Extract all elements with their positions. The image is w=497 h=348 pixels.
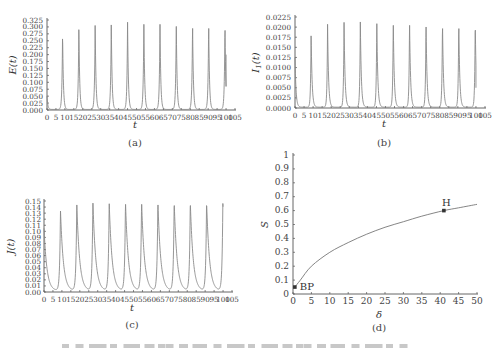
x-axis-label: t bbox=[382, 118, 387, 129]
series-line bbox=[295, 204, 477, 287]
x-tick-label: 30 bbox=[398, 296, 410, 306]
x-tick-label: 45 bbox=[453, 296, 465, 306]
panel-subtitle: (b) bbox=[377, 137, 391, 148]
y-tick-label: 1 bbox=[283, 150, 289, 160]
x-tick-label: 15 bbox=[342, 296, 354, 306]
y-axis-label: S bbox=[259, 221, 270, 228]
x-tick-label: 40 bbox=[434, 296, 446, 306]
x-tick-label: 105 bbox=[225, 295, 239, 304]
chart-panel-c: 0510152025303540455055606570758085909510… bbox=[5, 197, 239, 331]
y-tick-label: 0.325 bbox=[22, 16, 43, 25]
x-tick-label: 10 bbox=[324, 296, 336, 306]
x-tick-label: 35 bbox=[416, 296, 428, 306]
x-tick-label: 50 bbox=[471, 296, 483, 306]
x-axis-label: t bbox=[130, 302, 135, 313]
y-axis-label: E(t) bbox=[7, 55, 18, 75]
series-line bbox=[44, 203, 223, 289]
y-tick-label: 0.3 bbox=[275, 247, 290, 257]
x-tick-label: 105 bbox=[228, 113, 242, 122]
y-tick-label: 0.0175 bbox=[266, 33, 292, 42]
y-tick-label: 0.0000 bbox=[266, 104, 292, 113]
y-tick-label: 0.7 bbox=[275, 191, 290, 201]
panel-subtitle: (a) bbox=[128, 137, 142, 148]
y-tick-label: 0.0125 bbox=[266, 53, 292, 62]
x-tick-label: 5 bbox=[54, 113, 59, 122]
y-tick-label: 0.0100 bbox=[266, 63, 292, 72]
x-tick-label: 5 bbox=[302, 111, 307, 120]
x-tick-label: 5 bbox=[309, 296, 315, 306]
y-tick-label: 0.8 bbox=[275, 177, 290, 187]
chart-panel-d: 0510152025303540455000.10.20.30.40.50.60… bbox=[259, 150, 483, 334]
annotation-h: H bbox=[442, 197, 451, 208]
panel-subtitle: (d) bbox=[372, 322, 386, 333]
y-tick-label: 0.15 bbox=[25, 197, 41, 206]
y-tick-label: 0.4 bbox=[275, 233, 290, 243]
y-tick-label: 0.1 bbox=[275, 275, 289, 285]
x-tick-label: 5 bbox=[51, 295, 56, 304]
chart-panel-a: 0510152025303540455055606570758085909510… bbox=[7, 16, 242, 149]
marker-bp bbox=[293, 285, 297, 289]
y-tick-label: 0.6 bbox=[275, 205, 290, 215]
x-tick-label: 0 bbox=[42, 295, 47, 304]
x-tick-label: 0 bbox=[290, 296, 296, 306]
y-tick-label: 0.0225 bbox=[266, 13, 292, 22]
series-line bbox=[47, 22, 226, 109]
panel-subtitle: (c) bbox=[125, 319, 139, 330]
chart-panel-b: 0510152025303540455055606570758085909510… bbox=[250, 13, 492, 149]
annotation-bp: BP bbox=[300, 281, 314, 292]
y-tick-label: 0.0200 bbox=[266, 23, 292, 32]
x-axis-label: δ bbox=[376, 309, 382, 320]
y-axis-label: J(t) bbox=[5, 238, 16, 256]
x-tick-label: 25 bbox=[379, 296, 391, 306]
x-tick-label: 0 bbox=[293, 111, 298, 120]
y-axis-label: I1(t) bbox=[250, 52, 263, 73]
y-tick-label: 0.2 bbox=[275, 261, 289, 271]
x-tick-label: 105 bbox=[478, 111, 492, 120]
y-tick-label: 0.5 bbox=[275, 219, 290, 229]
figure-canvas: 0510152025303540455055606570758085909510… bbox=[0, 0, 497, 348]
figure-caption-partial bbox=[62, 344, 408, 348]
y-tick-label: 0.9 bbox=[275, 163, 290, 173]
x-tick-label: 20 bbox=[361, 296, 373, 306]
y-tick-label: 0 bbox=[283, 289, 289, 299]
y-tick-label: 0.0025 bbox=[266, 93, 292, 102]
marker-h bbox=[442, 209, 446, 213]
y-tick-label: 0.0150 bbox=[266, 43, 292, 52]
x-tick-label: 0 bbox=[45, 113, 50, 122]
series-line bbox=[295, 22, 476, 107]
y-tick-label: 0.0050 bbox=[266, 83, 292, 92]
y-tick-label: 0.0075 bbox=[266, 73, 292, 82]
